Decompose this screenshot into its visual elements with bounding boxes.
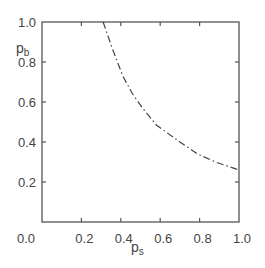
y-tick-label: 0.2 [18, 175, 36, 190]
x-tick-label: 0.8 [194, 231, 212, 246]
plot-frame [42, 22, 239, 222]
tick-labels: 0.20.40.60.81.00.20.40.60.81.0 [18, 15, 251, 246]
y-tick-label: 1.0 [18, 15, 36, 30]
x-axis-label: ps [131, 239, 144, 257]
y-tick-label: 0.6 [18, 95, 36, 110]
x-tick-label: 0.6 [154, 231, 172, 246]
y-tick-label: 0.4 [18, 135, 36, 150]
chart: 0.20.40.60.81.00.20.40.60.81.0 pb ps 0.0 [0, 0, 265, 268]
x-tick-label: 0.2 [75, 231, 93, 246]
data-curve [103, 22, 239, 170]
y-axis-label: pb [16, 40, 30, 58]
origin-label: 0.0 [17, 231, 35, 246]
axis-ticks [42, 22, 239, 222]
x-tick-label: 1.0 [233, 231, 251, 246]
